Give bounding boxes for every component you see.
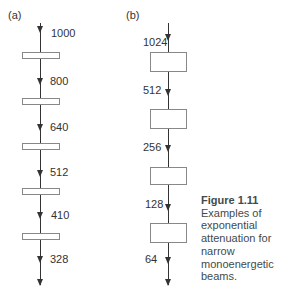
arrow-down-icon — [37, 212, 43, 219]
intensity-value: 512 — [50, 166, 68, 178]
arrow-down-icon — [37, 279, 43, 286]
arrow-down-icon — [165, 279, 171, 286]
arrow-down-icon — [37, 26, 43, 33]
absorber-slab — [22, 188, 60, 195]
intensity-value: 1000 — [51, 27, 75, 39]
caption-line: narrow — [201, 245, 285, 258]
intensity-value: 410 — [51, 209, 69, 221]
arrow-down-icon — [37, 124, 43, 131]
arrow-down-icon — [37, 256, 43, 263]
caption-line: beams. — [201, 270, 285, 283]
absorber-slab — [150, 109, 187, 129]
intensity-value: 256 — [143, 141, 161, 153]
intensity-value: 800 — [50, 75, 68, 87]
arrow-down-icon — [165, 89, 171, 96]
intensity-value: 640 — [50, 121, 68, 133]
figure-caption: Figure 1.11 Examples of exponential atte… — [201, 194, 285, 283]
arrow-down-icon — [165, 204, 171, 211]
absorber-slab — [22, 98, 60, 105]
intensity-value: 128 — [145, 198, 163, 210]
caption-line: attenuation for — [201, 232, 285, 245]
caption-line: monoenergetic — [201, 258, 285, 271]
absorber-slab — [150, 52, 187, 72]
arrow-down-icon — [165, 257, 171, 264]
absorber-slab — [150, 223, 187, 243]
absorber-slab — [150, 167, 187, 185]
caption-title: Figure 1.11 — [201, 194, 285, 207]
absorber-slab — [22, 233, 60, 240]
intensity-value: 1024 — [143, 36, 167, 48]
intensity-value: 64 — [145, 253, 157, 265]
panel-a-label: (a) — [8, 9, 21, 21]
absorber-slab — [22, 143, 60, 150]
panel-b-label: (b) — [126, 9, 139, 21]
arrow-down-icon — [37, 78, 43, 85]
intensity-value: 328 — [50, 253, 68, 265]
arrow-down-icon — [37, 170, 43, 177]
panel-a-beam-line — [40, 23, 41, 285]
caption-line: exponential — [201, 219, 285, 232]
caption-line: Examples of — [201, 207, 285, 220]
intensity-value: 512 — [143, 84, 161, 96]
arrow-down-icon — [165, 145, 171, 152]
absorber-slab — [22, 52, 60, 59]
